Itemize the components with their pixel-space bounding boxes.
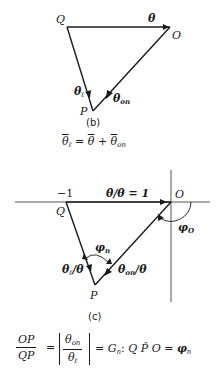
caption-b: (b) bbox=[86, 118, 100, 128]
abs-bar-right bbox=[89, 333, 90, 365]
vector-label-theta-on-c: θon/θ bbox=[118, 264, 146, 276]
vector-label-theta-l-b: θℓ bbox=[74, 86, 84, 98]
arrowhead-icon bbox=[160, 199, 167, 205]
vertex-q-c: Q bbox=[56, 206, 65, 217]
vector-label-unit-c: θ/θ = 1 bbox=[106, 188, 149, 199]
vector-theta-l-b bbox=[67, 27, 93, 111]
ratio-theta-on-theta-l: θonθℓ bbox=[63, 334, 82, 365]
angle-label-phi-n: φn bbox=[95, 242, 110, 254]
arrowhead-icon bbox=[104, 268, 112, 276]
equation-b: θℓ = θ + θon bbox=[62, 136, 126, 149]
angle-arc-phi-0 bbox=[160, 202, 191, 221]
vertex-p-b: P bbox=[80, 106, 87, 117]
arrowhead-icon bbox=[86, 264, 92, 272]
vertex-o-b: O bbox=[172, 30, 181, 41]
vector-label-theta-on-b: θon bbox=[113, 93, 130, 105]
caption-c: (c) bbox=[88, 312, 101, 322]
vertex-q-b: Q bbox=[56, 14, 65, 25]
vertex-p-c: P bbox=[90, 290, 97, 301]
axis-tick-minus-one: −1 bbox=[57, 188, 73, 199]
gain-and-angle: = Gn: Q P̂ O = φn bbox=[95, 343, 191, 356]
angle-label-phi-0: φO bbox=[178, 222, 194, 234]
equals-sign: = bbox=[46, 342, 55, 353]
abs-bar-left bbox=[59, 333, 60, 365]
arrowhead-icon bbox=[82, 253, 88, 260]
vector-theta-on-b bbox=[93, 27, 170, 111]
ratio-op-qp: OPQP bbox=[16, 334, 36, 361]
angle-arc-phi-n bbox=[86, 255, 108, 262]
vector-label-theta-b: θ bbox=[148, 13, 155, 24]
vertex-o-c: O bbox=[175, 189, 184, 200]
vector-label-theta-l-c: θℓ/θ bbox=[62, 264, 84, 276]
